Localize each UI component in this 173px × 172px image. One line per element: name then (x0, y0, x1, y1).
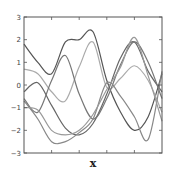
x-axis-label: x (90, 157, 97, 170)
y-tick-label: 2 (17, 36, 21, 44)
x-axis-ticks (52, 17, 135, 153)
y-tick-label: 0 (17, 82, 21, 90)
y-tick-label: 3 (17, 14, 21, 22)
series-line-sample-6 (24, 37, 162, 135)
line-chart: −3−2−10123 x (0, 0, 173, 172)
y-tick-label: −2 (11, 127, 21, 135)
y-tick-label: 1 (17, 59, 21, 67)
y-tick-label: −1 (11, 104, 21, 112)
series-lines (24, 30, 162, 144)
y-tick-label: −3 (11, 150, 21, 158)
y-axis-ticks: −3−2−10123 (11, 14, 162, 158)
